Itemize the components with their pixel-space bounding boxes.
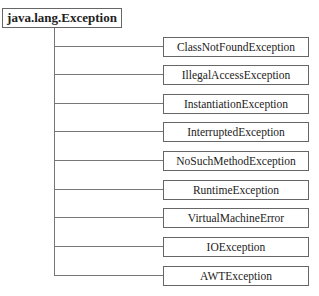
branch-connector bbox=[54, 217, 163, 218]
child-row: IllegalAccessException bbox=[54, 65, 319, 85]
branch-connector bbox=[54, 160, 163, 161]
child-node: ClassNotFoundException bbox=[163, 37, 309, 57]
branch-connector bbox=[54, 103, 163, 104]
branch-connector bbox=[54, 46, 163, 47]
child-row: RuntimeException bbox=[54, 180, 319, 200]
child-node: RuntimeException bbox=[163, 180, 309, 200]
child-node: InstantiationException bbox=[163, 94, 309, 114]
child-node: IllegalAccessException bbox=[163, 65, 309, 85]
branch-connector bbox=[54, 189, 163, 190]
child-node: InterruptedException bbox=[163, 122, 309, 142]
child-row: InstantiationException bbox=[54, 94, 319, 114]
child-row: NoSuchMethodException bbox=[54, 151, 319, 171]
child-node: NoSuchMethodException bbox=[163, 151, 309, 171]
branch-connector bbox=[54, 131, 163, 132]
child-node: VirtualMachineError bbox=[163, 208, 309, 228]
branch-connector bbox=[54, 275, 163, 276]
child-node: AWTException bbox=[163, 266, 309, 286]
child-row: ClassNotFoundException bbox=[54, 37, 319, 57]
child-row: AWTException bbox=[54, 266, 319, 286]
child-row: IOException bbox=[54, 237, 319, 257]
branch-connector bbox=[54, 74, 163, 75]
root-node-java-lang-exception: java.lang.Exception bbox=[2, 8, 122, 28]
child-node: IOException bbox=[163, 237, 309, 257]
child-row: VirtualMachineError bbox=[54, 208, 319, 228]
child-row: InterruptedException bbox=[54, 122, 319, 142]
branch-connector bbox=[54, 246, 163, 247]
